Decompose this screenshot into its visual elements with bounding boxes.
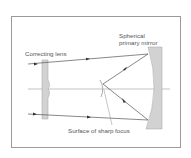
schmidt-camera-diagram [0, 0, 191, 158]
arrow-icon [122, 98, 126, 103]
correcting-lens-shape [42, 60, 50, 119]
mirror-label-line2: primary mirror [119, 39, 158, 46]
correcting-lens-label: Correcting lens [25, 50, 67, 57]
focal-surface [100, 80, 103, 97]
arrow-icon [87, 116, 91, 119]
focus-leader-line [104, 90, 112, 125]
focus-label: Surface of sharp focus [68, 127, 130, 134]
spherical-mirror-shape [146, 47, 162, 129]
mirror-label-line1: Spherical [119, 32, 145, 39]
arrow-icon [33, 113, 37, 116]
